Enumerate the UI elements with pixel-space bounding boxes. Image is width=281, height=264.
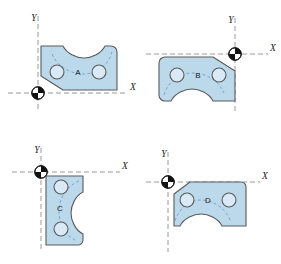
part-c-hole-top: [54, 180, 68, 194]
quadrant-c-x-axis-label: X: [121, 161, 129, 171]
part-c-hole-bottom: [54, 222, 68, 236]
part-d-label: D: [205, 196, 211, 205]
part-b-hole-right: [212, 68, 226, 82]
part-c-label: C: [57, 204, 63, 213]
figure-canvas: A Y X B Y X: [0, 0, 281, 264]
quadrant-b-origin-marker: [229, 48, 241, 60]
quadrant-c-group: C Y X: [12, 145, 129, 252]
quadrant-d-group: D Y X: [146, 149, 269, 252]
part-a-hole-left: [50, 65, 64, 79]
part-d-hole-right: [222, 193, 236, 207]
quadrant-b-y-axis-label: Y: [228, 15, 235, 25]
technical-drawing-figure: A Y X B Y X: [0, 0, 281, 264]
part-b-label: B: [195, 71, 200, 80]
quadrant-a-y-axis-label: Y: [31, 13, 38, 23]
quadrant-d-origin-marker: [162, 176, 174, 188]
quadrant-d-y-axis-label: Y: [161, 149, 168, 159]
quadrant-c-y-axis-label: Y: [34, 145, 41, 155]
quadrant-a-origin-marker: [32, 87, 44, 99]
part-a-label: A: [75, 68, 81, 77]
quadrant-c-origin-marker: [35, 166, 47, 178]
part-b-hole-left: [170, 68, 184, 82]
quadrant-b-group: B Y X: [146, 15, 277, 112]
quadrant-b-x-axis-label: X: [269, 43, 277, 53]
quadrant-a-x-axis-label: X: [129, 82, 137, 92]
quadrant-a-group: A Y X: [8, 13, 137, 110]
quadrant-d-x-axis-label: X: [261, 171, 269, 181]
part-a-hole-right: [92, 65, 106, 79]
part-d-hole-left: [180, 193, 194, 207]
